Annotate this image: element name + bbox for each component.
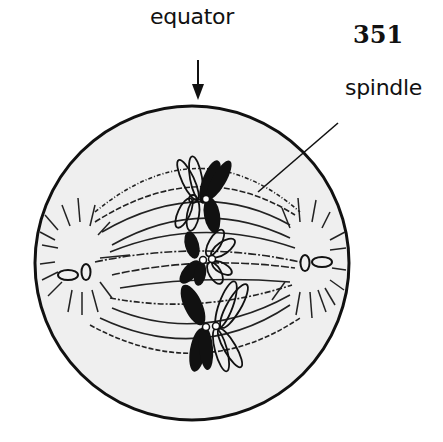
metaphase-cell-diagram bbox=[0, 0, 443, 442]
equator-arrow-icon bbox=[192, 60, 204, 100]
